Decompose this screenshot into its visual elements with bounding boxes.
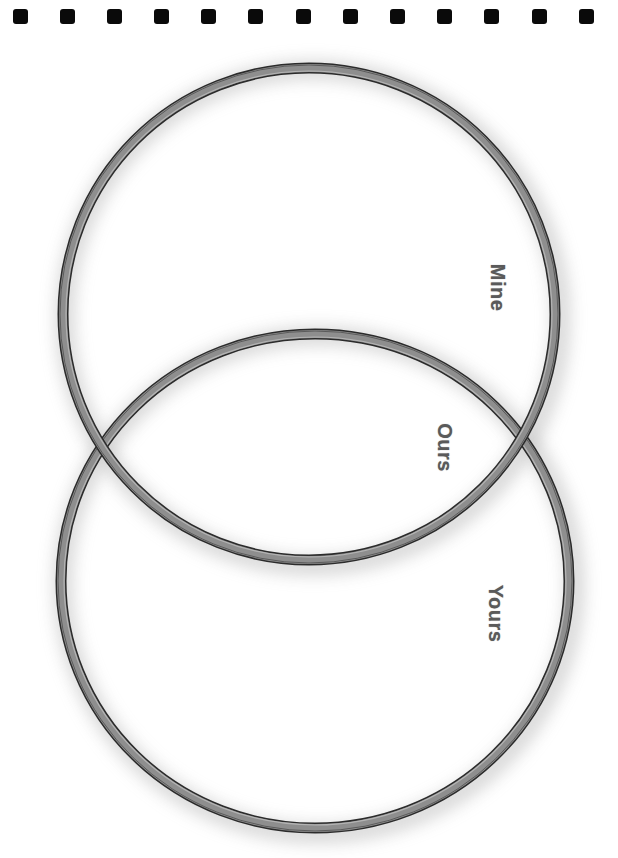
venn-worksheet: Mine Ours Yours [0, 0, 618, 858]
set-label-yours: Yours [484, 574, 507, 654]
ring-shadows [63, 70, 575, 834]
set-label-mine: Mine [486, 253, 509, 323]
set-circle-mine [60, 65, 558, 563]
intersection-label-ours: Ours [433, 413, 456, 483]
venn-diagram [0, 0, 618, 858]
